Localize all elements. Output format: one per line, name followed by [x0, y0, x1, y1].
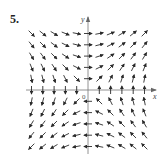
slope-arrow — [41, 64, 45, 71]
slope-arrow — [40, 144, 46, 149]
slope-arrow — [107, 133, 114, 137]
slope-arrow — [142, 120, 146, 127]
slope-arrow — [131, 109, 135, 116]
slope-arrow — [62, 122, 69, 126]
slope-arrow — [52, 64, 56, 71]
slope-arrow — [73, 123, 81, 126]
slope-arrow — [142, 31, 148, 37]
slope-arrow — [96, 55, 104, 58]
slope-arrow — [29, 42, 34, 48]
slope-arrow — [31, 97, 33, 105]
slope-arrow — [62, 43, 69, 47]
slope-arrow — [73, 66, 80, 70]
slope-arrow — [74, 98, 80, 104]
slope-arrow — [132, 75, 134, 83]
slope-arrow — [51, 121, 57, 127]
slope-arrow — [40, 132, 46, 138]
origin-label: 0 — [82, 93, 86, 101]
slope-arrow — [130, 132, 136, 138]
slope-arrow — [29, 31, 35, 37]
slope-arrow — [73, 44, 81, 46]
slope-arrow — [29, 132, 34, 138]
slope-arrow — [42, 75, 44, 83]
direction-field-plot: x y 0 — [0, 0, 164, 158]
slope-arrow — [132, 97, 134, 105]
slope-arrow — [29, 144, 35, 150]
slope-arrow — [108, 110, 114, 116]
slope-arrow — [143, 64, 146, 71]
slope-arrow — [95, 44, 103, 46]
slope-arrow — [119, 42, 125, 47]
slope-arrow — [30, 64, 33, 71]
slope-arrow — [96, 123, 104, 126]
slope-arrow — [29, 120, 33, 127]
slope-arrow — [130, 31, 136, 36]
slope-arrow — [53, 98, 56, 106]
slope-arrow — [144, 75, 146, 83]
slope-arrow — [119, 121, 125, 127]
slope-arrow — [40, 121, 45, 127]
slope-arrow — [40, 53, 45, 59]
slope-arrow — [51, 53, 57, 59]
slope-arrow — [142, 53, 146, 60]
slope-arrow — [96, 111, 103, 115]
slope-arrow — [118, 31, 125, 35]
slope-arrow — [30, 109, 33, 116]
slope-arrow — [120, 109, 124, 116]
slope-arrow — [109, 98, 113, 105]
slope-arrow — [52, 109, 56, 116]
slope-arrow — [108, 65, 114, 71]
slope-arrow — [119, 53, 125, 59]
slope-arrow — [142, 132, 147, 138]
slope-arrow — [73, 33, 81, 35]
x-axis-label: x — [152, 92, 157, 101]
slope-arrow — [64, 75, 68, 82]
slope-arrow — [51, 42, 57, 47]
slope-arrow — [107, 145, 114, 148]
slope-arrow — [121, 98, 124, 106]
slope-arrow — [73, 146, 81, 148]
slope-arrow — [73, 111, 80, 115]
slope-arrow — [51, 144, 58, 148]
slope-arrow — [95, 134, 103, 136]
slope-arrow — [95, 33, 103, 35]
slope-arrow — [51, 31, 58, 35]
slope-arrow — [42, 97, 44, 105]
slope-arrow — [142, 144, 148, 150]
slope-arrow — [31, 75, 33, 83]
slope-arrow — [51, 133, 57, 138]
slope-arrow — [40, 42, 46, 48]
slope-arrow — [62, 133, 69, 137]
slope-arrow — [109, 75, 113, 82]
slope-arrow — [96, 98, 102, 104]
slope-arrow — [53, 75, 56, 83]
slope-arrow — [131, 121, 136, 127]
slope-arrow — [107, 43, 114, 47]
slope-arrow — [73, 55, 81, 58]
slope-arrow — [144, 97, 146, 105]
slope-arrow — [40, 31, 46, 36]
slope-arrow — [29, 53, 33, 60]
slope-arrow — [130, 42, 136, 48]
slope-arrow — [95, 146, 103, 148]
slope-arrow — [96, 66, 103, 70]
slope-arrow — [73, 134, 81, 136]
slope-arrow — [62, 32, 69, 35]
slope-arrow — [63, 65, 69, 71]
slope-arrow — [63, 110, 69, 116]
slope-arrow — [121, 75, 124, 83]
slope-arrow — [119, 133, 125, 138]
slope-arrow — [118, 144, 125, 148]
slope-arrow — [107, 54, 114, 58]
slope-arrow — [120, 64, 124, 71]
slope-arrow — [107, 122, 114, 126]
slope-arrow — [142, 42, 147, 48]
slope-arrow — [130, 144, 136, 149]
slope-arrow — [131, 53, 136, 59]
slope-arrow — [74, 76, 80, 82]
slope-arrow — [96, 76, 102, 82]
slope-arrow — [62, 54, 69, 58]
slope-arrow — [41, 109, 45, 116]
y-axis-label: y — [80, 15, 85, 24]
slope-arrow — [143, 109, 146, 116]
